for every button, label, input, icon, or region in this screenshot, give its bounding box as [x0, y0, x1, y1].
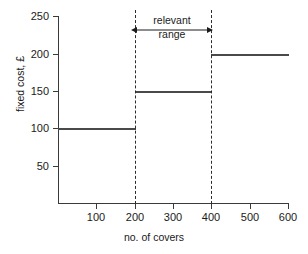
y-tick-label-50: 50 — [9, 161, 49, 172]
x-tick-100 — [96, 204, 97, 209]
x-tick-200 — [135, 204, 136, 209]
relevant-range-label-line2: range — [137, 28, 207, 40]
x-tick-label-100: 100 — [76, 212, 116, 223]
x-axis-label: no. of covers — [0, 231, 308, 243]
x-tick-300 — [173, 204, 174, 209]
dashed-line-x400 — [211, 10, 212, 204]
x-tick-label-500: 500 — [230, 212, 270, 223]
y-tick-50 — [53, 166, 58, 167]
y-axis-label: fixed cost, £ — [14, 29, 26, 139]
fixed-cost-step-chart: 250 200 150 100 50 100 200 300 400 500 6… — [0, 0, 308, 254]
x-tick-label-600: 600 — [268, 212, 308, 223]
y-axis-line — [58, 16, 59, 204]
x-tick-label-400: 400 — [191, 212, 231, 223]
x-tick-400 — [211, 204, 212, 209]
y-tick-250 — [53, 16, 58, 17]
step-segment-200 — [211, 54, 289, 56]
x-tick-500 — [250, 204, 251, 209]
y-tick-150 — [53, 91, 58, 92]
x-tick-600 — [288, 204, 289, 209]
x-tick-label-200: 200 — [115, 212, 155, 223]
step-segment-150 — [135, 91, 212, 93]
step-segment-100 — [58, 128, 136, 130]
dashed-line-x200 — [135, 10, 136, 204]
x-tick-label-300: 300 — [153, 212, 193, 223]
y-tick-label-250: 250 — [9, 11, 49, 22]
relevant-range-label-line1: relevant — [137, 14, 207, 26]
y-tick-200 — [53, 54, 58, 55]
